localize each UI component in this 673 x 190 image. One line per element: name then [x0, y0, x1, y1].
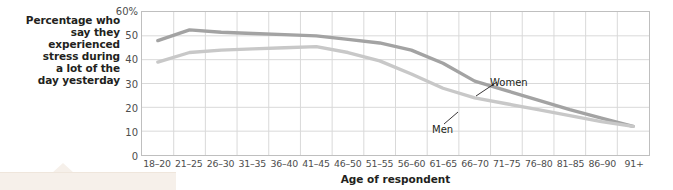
x-axis-tick-labels: 18–2021–2526–3031–3536–4041–4546–5051–55… [141, 158, 650, 172]
x-tick-label: 76–80 [525, 158, 553, 169]
series-annotation-women: Women [490, 77, 528, 88]
x-tick-label: 18–20 [143, 158, 171, 169]
x-axis-title: Age of respondent [141, 173, 650, 185]
x-tick-label: 56–60 [398, 158, 426, 169]
callout-banner [0, 172, 176, 190]
x-tick-label: 66–70 [461, 158, 489, 169]
x-tick-label: 26–30 [207, 158, 235, 169]
x-tick-label: 46–50 [334, 158, 362, 169]
x-tick-label: 81–85 [557, 158, 585, 169]
x-tick-label: 51–55 [366, 158, 394, 169]
series-annotation-men: Men [432, 124, 453, 135]
x-tick-label: 36–40 [270, 158, 298, 169]
x-tick-label: 31–35 [239, 158, 267, 169]
x-tick-label: 86–90 [589, 158, 617, 169]
stress-by-age-line-chart: Percentage who say they experienced stre… [0, 0, 673, 190]
x-tick-label: 61–65 [429, 158, 457, 169]
x-tick-label: 21–25 [175, 158, 203, 169]
x-tick-label: 71–75 [493, 158, 521, 169]
x-tick-label: 41–45 [302, 158, 330, 169]
x-tick-label: 91+ [625, 158, 644, 169]
